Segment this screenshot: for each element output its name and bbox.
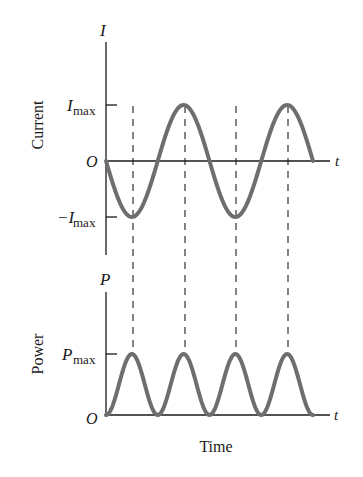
- pmax-label-sub: max: [73, 352, 96, 367]
- power-axis-title: Power: [29, 333, 46, 375]
- time-axis-title: Time: [199, 438, 232, 455]
- current-axes: [106, 42, 330, 255]
- power-t-label: t: [334, 407, 339, 423]
- imax-label-sub: max: [73, 103, 96, 118]
- power-curve: [106, 354, 313, 415]
- current-axis-symbol: I: [99, 21, 107, 40]
- neg-imax-label-sub: max: [73, 215, 96, 230]
- current-power-diagram: I t O I max −I max Current P t O P max P…: [0, 0, 363, 477]
- current-axis-title: Current: [29, 100, 46, 149]
- power-axis-symbol: P: [99, 270, 110, 289]
- power-origin-label: O: [86, 410, 98, 427]
- current-origin-label: O: [86, 153, 98, 170]
- current-t-label: t: [335, 153, 340, 169]
- pmax-label-main: P: [61, 345, 72, 364]
